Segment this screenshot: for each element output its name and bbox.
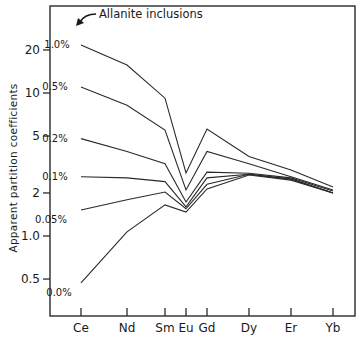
series-line-2 — [81, 139, 333, 202]
x-tick-label-er: Er — [285, 321, 298, 335]
plot-border — [50, 6, 355, 316]
y-tick-label: 10 — [25, 86, 40, 100]
x-tick-label-eu: Eu — [178, 321, 193, 335]
y-axis-title: Apparent partition coefficients — [7, 83, 19, 252]
y-tick-label: 5 — [32, 129, 40, 143]
series-lines: 1.0%0.5%0.2%0.1%0.05%0.0% — [35, 39, 333, 298]
x-axis-ticks: CeNdSmEuGdDyErYb — [73, 308, 340, 335]
series-label: 1.0% — [44, 39, 69, 50]
series-label: 0.1% — [42, 171, 67, 182]
annotation-text: Allanite inclusions — [99, 7, 203, 21]
series-line-1 — [81, 87, 333, 190]
series-line-0 — [81, 45, 333, 187]
y-tick-label: 1.0 — [21, 229, 40, 243]
y-tick-label: 0.5 — [21, 272, 40, 286]
series-label: 0.5% — [42, 81, 67, 92]
curved-arrow-icon — [80, 14, 96, 22]
plot-frame — [50, 6, 355, 316]
series-label: 0.2% — [42, 133, 67, 144]
x-tick-label-nd: Nd — [119, 321, 136, 335]
y-axis-ticks: 2010521.00.5 — [21, 43, 50, 286]
series-label: 0.05% — [35, 214, 67, 225]
y-tick-label: 2 — [32, 186, 40, 200]
x-tick-label-gd: Gd — [199, 321, 216, 335]
x-tick-label-ce: Ce — [73, 321, 89, 335]
series-line-5 — [81, 175, 333, 283]
x-tick-label-dy: Dy — [241, 321, 257, 335]
partition-coefficient-chart: 2010521.00.5 CeNdSmEuGdDyErYb 1.0%0.5%0.… — [0, 0, 364, 343]
x-tick-label-sm: Sm — [155, 321, 174, 335]
x-tick-label-yb: Yb — [325, 321, 341, 335]
y-tick-label: 20 — [25, 43, 40, 57]
allanite-annotation: Allanite inclusions — [76, 7, 203, 26]
series-label: 0.0% — [46, 287, 71, 298]
